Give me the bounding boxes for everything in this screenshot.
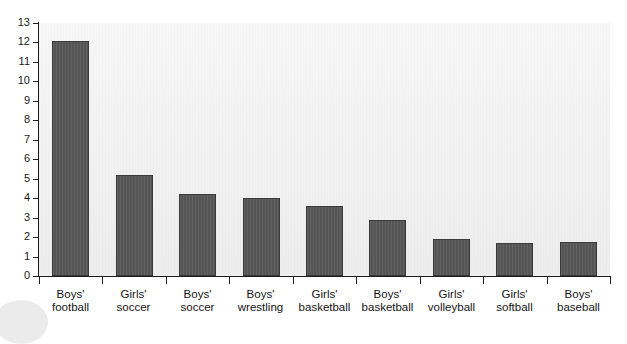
x-axis-tick — [293, 277, 294, 284]
x-axis-line — [38, 276, 611, 277]
y-axis-tick — [33, 42, 38, 43]
bar — [116, 175, 153, 276]
y-axis-line — [38, 22, 39, 277]
y-axis-tick — [33, 159, 38, 160]
bar — [52, 41, 89, 276]
x-axis-tick — [39, 277, 40, 284]
bar — [179, 194, 216, 276]
x-axis-category-label: Girls'soccer — [102, 288, 165, 314]
bar — [306, 206, 343, 276]
x-axis-category-label: Girls'volleyball — [420, 288, 483, 314]
y-axis-tick-label: 12 — [8, 36, 30, 47]
y-axis-tick — [33, 198, 38, 199]
x-axis-tick — [229, 277, 230, 284]
x-axis-category-label-line: wrestling — [229, 301, 292, 314]
x-axis-category-label: Girls'softball — [483, 288, 546, 314]
y-axis-tick-label: 3 — [8, 212, 30, 223]
x-axis-category-label-line: Boys' — [229, 288, 292, 301]
x-axis-tick — [420, 277, 421, 284]
y-axis-tick-label: 9 — [8, 95, 30, 106]
x-axis-category-label-line: basketball — [293, 301, 356, 314]
x-axis-category-label: Boys'wrestling — [229, 288, 292, 314]
x-axis-category-label-line: baseball — [547, 301, 610, 314]
y-axis-tick — [33, 101, 38, 102]
x-axis-category-label: Boys'football — [39, 288, 102, 314]
y-axis-tick — [33, 23, 38, 24]
x-axis-category-label-line: Girls' — [420, 288, 483, 301]
x-axis-category-label: Boys'basketball — [356, 288, 419, 314]
y-axis-tick — [33, 179, 38, 180]
x-axis-category-label-line: Boys' — [547, 288, 610, 301]
x-axis-category-label: Girls'basketball — [293, 288, 356, 314]
x-axis-category-label-line: Boys' — [356, 288, 419, 301]
y-axis-tick — [33, 140, 38, 141]
y-axis-tick-label: 11 — [8, 56, 30, 67]
x-axis-category-label: Boys'baseball — [547, 288, 610, 314]
x-axis-category-label-line: soccer — [102, 301, 165, 314]
y-axis-tick — [33, 257, 38, 258]
bar — [243, 198, 280, 276]
y-axis-tick — [33, 62, 38, 63]
y-axis-tick-label: 4 — [8, 192, 30, 203]
y-axis-tick-label: 5 — [8, 173, 30, 184]
x-axis-tick — [102, 277, 103, 284]
x-axis-category-label-line: soccer — [166, 301, 229, 314]
bar — [560, 242, 597, 276]
y-axis-tick — [33, 120, 38, 121]
x-axis-category-label-line: Boys' — [39, 288, 102, 301]
y-axis-tick-label: 10 — [8, 75, 30, 86]
x-axis-category-label-line: Girls' — [483, 288, 546, 301]
x-axis-tick — [483, 277, 484, 284]
x-axis-category-label-line: softball — [483, 301, 546, 314]
x-axis-tick — [547, 277, 548, 284]
x-axis-category-label-line: Girls' — [102, 288, 165, 301]
y-axis-tick-label: 13 — [8, 17, 30, 28]
bar — [369, 220, 406, 276]
y-axis-tick — [33, 81, 38, 82]
y-axis-tick — [33, 218, 38, 219]
x-axis-category-label-line: basketball — [356, 301, 419, 314]
bar — [433, 239, 470, 276]
y-axis-tick-label: 2 — [8, 231, 30, 242]
y-axis-tick-label: 6 — [8, 153, 30, 164]
y-axis-tick-label: 7 — [8, 134, 30, 145]
x-axis-tick — [356, 277, 357, 284]
x-axis-tick — [610, 277, 611, 284]
x-axis-category-label: Boys'soccer — [166, 288, 229, 314]
x-axis-category-label-line: Boys' — [166, 288, 229, 301]
y-axis-tick-label: 8 — [8, 114, 30, 125]
x-axis-tick — [166, 277, 167, 284]
y-axis-tick — [33, 276, 38, 277]
bar — [496, 243, 533, 276]
y-axis-tick-label: 0 — [8, 270, 30, 281]
x-axis-category-label-line: volleyball — [420, 301, 483, 314]
x-axis-category-label-line: football — [39, 301, 102, 314]
y-axis-tick-label: 1 — [8, 251, 30, 262]
y-axis-tick — [33, 237, 38, 238]
x-axis-category-label-line: Girls' — [293, 288, 356, 301]
